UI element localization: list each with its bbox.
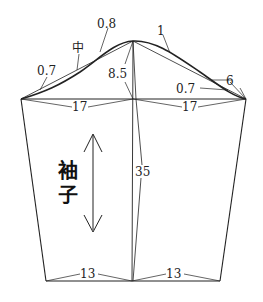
label-13-left: 13 bbox=[80, 267, 95, 281]
label-1: 1 bbox=[157, 24, 165, 38]
label-0-8: 0.8 bbox=[97, 17, 116, 31]
label-0-7-right: 0.7 bbox=[176, 82, 195, 96]
diagram-svg: 0.8 中 0.7 1 0.7 6 8.5 17 17 35 13 13 袖 子 bbox=[0, 0, 263, 302]
leader-zhong bbox=[77, 54, 79, 70]
dim-13-right-b bbox=[184, 274, 220, 281]
label-zhong: 中 bbox=[72, 40, 84, 55]
label-17-left: 17 bbox=[72, 100, 87, 114]
label-8-5: 8.5 bbox=[108, 67, 127, 81]
dim-17-right-b bbox=[198, 99, 246, 107]
label-zi: 子 bbox=[58, 183, 78, 207]
leader-0-8 bbox=[100, 28, 108, 52]
label-0-7-left: 0.7 bbox=[37, 64, 56, 78]
dim-13-right-a bbox=[132, 274, 166, 281]
sleeve-length-line bbox=[133, 41, 142, 165]
leader-0-7-left bbox=[40, 77, 47, 90]
dim-17-left-b bbox=[88, 99, 133, 107]
cap-height-leader-bottom bbox=[125, 82, 133, 99]
sleeve-pattern-diagram: 0.8 中 0.7 1 0.7 6 8.5 17 17 35 13 13 袖 子 bbox=[0, 0, 263, 302]
label-35: 35 bbox=[135, 165, 150, 179]
dim-13-left-b bbox=[98, 274, 132, 281]
center-line bbox=[132, 41, 133, 281]
side-seam-left bbox=[21, 99, 46, 281]
label-13-right: 13 bbox=[166, 267, 181, 281]
label-17-right: 17 bbox=[182, 100, 197, 114]
side-seam-right bbox=[220, 99, 246, 281]
label-6: 6 bbox=[226, 74, 234, 88]
label-xiu: 袖 bbox=[58, 159, 78, 183]
dim-13-left-a bbox=[46, 274, 80, 281]
dim-17-right-a bbox=[133, 99, 182, 107]
dim-17-left-a bbox=[21, 99, 72, 107]
sleeve-length-line-lower bbox=[133, 178, 141, 281]
